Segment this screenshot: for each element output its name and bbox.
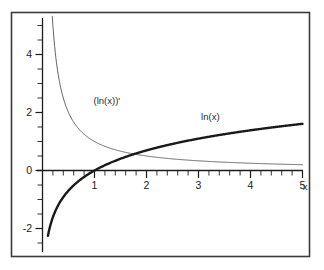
series-label-ln-derivative: (ln(x))' — [94, 95, 121, 106]
x-tick-label: 3 — [196, 179, 202, 191]
x-tick-label: 4 — [248, 179, 254, 191]
y-tick-label: 0 — [26, 164, 32, 176]
x-tick-label: 2 — [144, 179, 150, 191]
plot-canvas: 12345 -2024 (ln(x))' ln(x) x — [0, 0, 324, 270]
chart-figure: 12345 -2024 (ln(x))' ln(x) x — [0, 0, 324, 270]
series-label-ln: ln(x) — [201, 111, 219, 122]
y-tick-label: 2 — [26, 106, 32, 118]
y-tick-label: 4 — [26, 48, 32, 60]
x-tick-label: 1 — [92, 179, 98, 191]
x-axis-label: x — [303, 181, 308, 192]
y-tick-label: -2 — [23, 222, 32, 234]
